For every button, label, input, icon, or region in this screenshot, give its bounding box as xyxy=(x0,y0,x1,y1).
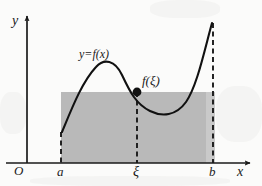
tick-label-xi: ξ xyxy=(133,165,139,179)
figure-canvas: y x O a ξ b y=f(x) f(ξ) xyxy=(0,0,262,186)
x-axis-label: x xyxy=(237,165,243,179)
f-xi-value-label: f(ξ) xyxy=(142,74,160,87)
y-axis-label: y xyxy=(12,14,18,28)
tick-label-b: b xyxy=(209,165,216,178)
origin-label: O xyxy=(14,164,23,177)
tick-label-a: a xyxy=(57,165,64,178)
f-xi-point-marker xyxy=(133,88,142,97)
plot-svg xyxy=(0,0,262,186)
curve-equation-label: y=f(x) xyxy=(79,48,109,60)
